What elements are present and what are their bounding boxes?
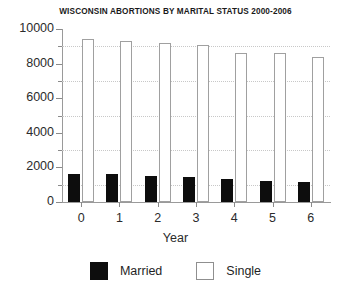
x-tick-label: 4 bbox=[214, 212, 254, 225]
y-tick-label: 8000 bbox=[26, 57, 54, 70]
bar-single-1 bbox=[120, 41, 132, 202]
y-tick-minor bbox=[58, 46, 62, 47]
x-tick bbox=[81, 202, 82, 207]
x-tick-label: 5 bbox=[253, 212, 293, 225]
y-tick bbox=[56, 64, 62, 65]
legend-swatch-married bbox=[90, 262, 108, 280]
x-tick-label: 6 bbox=[291, 212, 331, 225]
bar-single-6 bbox=[312, 57, 324, 202]
y-tick-label: 0 bbox=[47, 195, 54, 208]
legend-label-single: Single bbox=[226, 265, 261, 278]
legend-label-married: Married bbox=[120, 265, 162, 278]
y-tick-minor bbox=[58, 150, 62, 151]
x-tick bbox=[234, 202, 235, 207]
y-tick bbox=[56, 202, 62, 203]
gridline bbox=[62, 81, 330, 83]
bar-married-4 bbox=[221, 179, 233, 202]
y-tick-label: 4000 bbox=[26, 126, 54, 139]
bar-married-5 bbox=[260, 181, 272, 202]
x-tick bbox=[273, 202, 274, 207]
bar-married-0 bbox=[68, 174, 80, 202]
bar-married-1 bbox=[106, 174, 118, 202]
chart-title: WISCONSIN ABORTIONS BY MARITAL STATUS 20… bbox=[0, 7, 351, 16]
y-tick bbox=[56, 98, 62, 99]
legend-swatch-single bbox=[196, 262, 214, 280]
y-tick-minor bbox=[58, 185, 62, 186]
bar-single-5 bbox=[274, 53, 286, 202]
x-tick-label: 2 bbox=[138, 212, 178, 225]
x-tick bbox=[311, 202, 312, 207]
x-axis-title: Year bbox=[0, 231, 351, 245]
bar-single-2 bbox=[159, 43, 171, 202]
gridline bbox=[62, 46, 330, 48]
bar-single-0 bbox=[82, 39, 94, 202]
y-tick-label: 2000 bbox=[26, 160, 54, 173]
y-tick bbox=[56, 167, 62, 168]
gridline bbox=[62, 150, 330, 152]
y-tick-minor bbox=[58, 116, 62, 117]
y-tick-label: 6000 bbox=[26, 91, 54, 104]
bar-single-3 bbox=[197, 45, 209, 202]
gridline bbox=[62, 116, 330, 118]
legend-item-single: Single bbox=[196, 262, 261, 280]
bar-married-6 bbox=[298, 182, 310, 202]
x-tick-label: 0 bbox=[61, 212, 101, 225]
chart-legend: Married Single bbox=[0, 262, 351, 280]
bar-married-2 bbox=[145, 176, 157, 202]
bar-single-4 bbox=[235, 53, 247, 202]
y-tick bbox=[56, 133, 62, 134]
gridline bbox=[62, 185, 330, 187]
y-tick bbox=[56, 29, 62, 30]
chart-container: WISCONSIN ABORTIONS BY MARITAL STATUS 20… bbox=[0, 0, 351, 301]
x-tick-label: 3 bbox=[176, 212, 216, 225]
x-tick-label: 1 bbox=[99, 212, 139, 225]
x-tick bbox=[196, 202, 197, 207]
x-tick bbox=[119, 202, 120, 207]
legend-item-married: Married bbox=[90, 262, 162, 280]
bar-married-3 bbox=[183, 177, 195, 202]
y-tick-label: 10000 bbox=[19, 22, 54, 35]
x-tick bbox=[158, 202, 159, 207]
y-tick-minor bbox=[58, 81, 62, 82]
